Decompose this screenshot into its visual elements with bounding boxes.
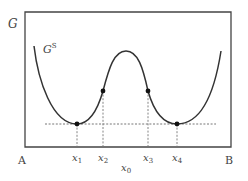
- tick-label-x1: x1: [72, 152, 82, 165]
- y-axis-label: G: [8, 17, 18, 31]
- free-energy-diagram: G GS A B x1 x2 x3 x4 x0: [0, 0, 248, 181]
- free-energy-curve: [34, 46, 221, 124]
- point-x3: [146, 89, 151, 94]
- point-x4: [175, 122, 180, 127]
- plot-frame: [25, 12, 231, 147]
- center-label-x0: x0: [121, 162, 131, 175]
- point-x1: [75, 122, 80, 127]
- tick-label-x2: x2: [98, 152, 108, 165]
- curve-label: GS: [43, 42, 57, 56]
- endpoint-a-label: A: [17, 154, 27, 167]
- point-x2: [101, 89, 106, 94]
- tick-label-x3: x3: [143, 152, 153, 165]
- endpoint-b-label: B: [225, 154, 233, 167]
- tick-label-x4: x4: [172, 152, 183, 165]
